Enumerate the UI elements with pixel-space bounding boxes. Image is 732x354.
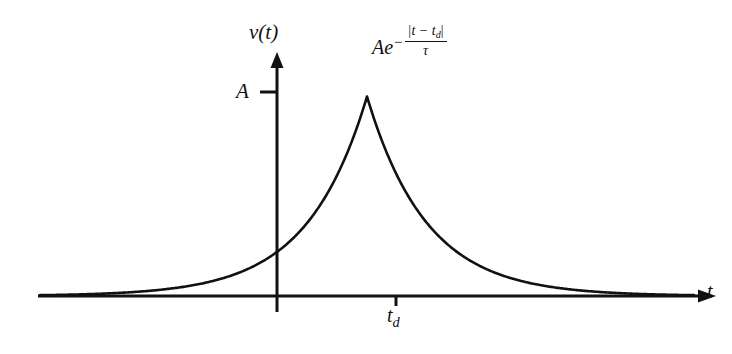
expression-numerator-text: |t − t	[408, 23, 436, 38]
x-axis-label-text: t	[707, 280, 713, 302]
expression-base: Ae	[372, 37, 393, 58]
plot-svg	[0, 0, 732, 354]
expression-fraction: |t − td| τ	[405, 24, 447, 58]
figure-canvas: v(t) t A td Ae − |t − td| τ	[0, 0, 732, 354]
amplitude-label-text: A	[236, 79, 249, 103]
expression-minus-sign: −	[394, 35, 402, 50]
pulse-expression: Ae − |t − td| τ	[372, 26, 447, 58]
exponential-pulse-curve	[40, 97, 694, 296]
expression-exponent: − |t − td| τ	[394, 24, 446, 58]
center-tick-label: td	[387, 305, 400, 329]
y-axis-label: v(t)	[249, 22, 278, 43]
amplitude-label: A	[236, 81, 249, 102]
center-tick-subscript: d	[393, 314, 400, 330]
expression-denominator: τ	[420, 42, 431, 58]
expression-numerator: |t − td|	[405, 24, 447, 41]
expression-numerator-close: |	[441, 23, 444, 38]
x-axis-label: t	[707, 281, 713, 301]
y-axis-label-text: v(t)	[249, 20, 278, 44]
y-axis-arrowhead	[271, 52, 284, 68]
